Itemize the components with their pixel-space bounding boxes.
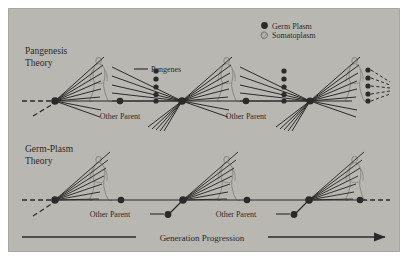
pangene-dot	[281, 84, 286, 89]
pangene-dot	[281, 92, 286, 97]
pangene-dot	[365, 67, 370, 72]
somatoplasm-figure	[89, 58, 112, 102]
germ-plasm-node	[118, 197, 125, 204]
pangenesis-title-line1: Pangenesis	[25, 46, 68, 56]
pangene-dot	[281, 98, 286, 103]
germ-plasm-node	[243, 98, 250, 105]
axis-label: Generation Progression	[160, 233, 245, 243]
somatoplasm-figure	[345, 58, 368, 102]
legend: Germ Plasm Somatoplasm	[261, 22, 316, 41]
figure-root: Germ Plasm Somatoplasm Pangenesis Theory	[0, 0, 408, 262]
soma-fan	[309, 152, 364, 200]
somatoplasm-figure	[217, 157, 240, 201]
germ-plasm-node	[357, 197, 364, 204]
legend-item-germ-plasm: Germ Plasm	[261, 22, 312, 31]
germ-plasm-node	[117, 98, 124, 105]
other-parent-label: Other Parent	[216, 210, 257, 219]
pangene-rays-dashed-out	[371, 70, 390, 101]
somatoplasm-marker-icon	[261, 32, 267, 39]
other-parent-fan	[276, 101, 310, 131]
somatoplasm-figure	[345, 157, 368, 201]
pangene-rays-out	[55, 57, 104, 117]
legend-label-germ-plasm: Germ Plasm	[272, 22, 313, 31]
pangene-dot	[153, 76, 158, 81]
zygote-node	[51, 97, 59, 105]
zygote-node	[305, 196, 313, 204]
germ-plasm-node	[244, 197, 251, 204]
germplasm-title-line1: Germ-Plasm	[25, 144, 74, 154]
soma-fan	[183, 152, 238, 200]
germ-plasm-node	[306, 97, 313, 104]
pangenesis-title-line2: Theory	[25, 58, 53, 68]
zygote-node	[178, 97, 186, 105]
other-parent-label: Other Parent	[90, 210, 131, 219]
somatoplasm-figure	[89, 157, 112, 201]
soma-fan	[55, 152, 110, 200]
legend-item-somatoplasm: Somatoplasm	[261, 31, 316, 40]
other-parent-node	[291, 211, 298, 218]
other-parent-line-dashed-in	[33, 203, 53, 216]
pangene-dot	[281, 68, 286, 73]
pangene-dot	[153, 98, 158, 103]
pangenesis-unit-terminal	[306, 57, 390, 117]
pangene-rays-in	[240, 67, 310, 101]
zygote-node	[179, 196, 187, 204]
zygote-node	[51, 196, 59, 204]
pangene-dot	[153, 84, 158, 89]
row-pangenesis: Pangenesis Theory	[22, 46, 390, 131]
other-parent-label: Other Parent	[100, 112, 141, 121]
pangene-rays-out	[310, 57, 360, 117]
pangene-rays-out	[182, 57, 232, 117]
pangene-dot	[153, 92, 158, 97]
pangene-dot	[365, 83, 370, 88]
pangene-dot	[281, 76, 286, 81]
pangene-dot	[365, 91, 370, 96]
legend-label-somatoplasm: Somatoplasm	[272, 31, 316, 40]
other-parent-node	[165, 211, 172, 218]
diagram-canvas: Germ Plasm Somatoplasm Pangenesis Theory	[0, 0, 408, 262]
row-germ-plasm: Germ-Plasm Theory	[22, 144, 390, 219]
generation-progression-axis: Generation Progression	[22, 233, 385, 243]
pangene-dot	[365, 75, 370, 80]
other-parent-fan	[148, 101, 182, 131]
germplasm-title-line2: Theory	[25, 156, 53, 166]
pangene-dot	[365, 98, 370, 103]
other-parent-label: Other Parent	[226, 112, 267, 121]
pangenes-callout-label: Pangenes	[151, 65, 181, 74]
somatoplasm-figure	[217, 58, 240, 102]
pangene-dots	[365, 67, 370, 103]
other-parent-line-dashed-in	[33, 104, 53, 116]
germ-plasm-marker-icon	[261, 22, 268, 29]
